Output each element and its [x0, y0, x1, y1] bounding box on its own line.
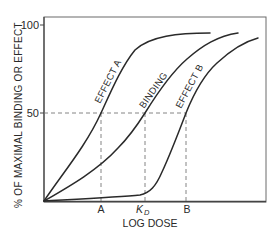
y-tick-label-50: 50: [27, 107, 39, 119]
curve-effect-b: [44, 38, 258, 201]
curve-label-binding: BINDING: [137, 70, 170, 110]
x-axis-label: LOG DOSE: [123, 217, 178, 229]
x-tick-label-a: A: [97, 203, 104, 215]
curve-binding: [44, 33, 238, 201]
y-axis-label: % OF MAXIMAL BINDING OR EFFECT: [13, 22, 24, 208]
x-tick-label-b: B: [183, 203, 190, 215]
x-tick-label-kd-main: K: [136, 203, 144, 215]
curve-label-effect-b: EFFECT B: [173, 62, 205, 110]
dose-response-chart: 100 50 EFFECT A BINDING EFFECT B A K D B…: [0, 0, 277, 234]
x-tick-label-kd: K D: [136, 203, 150, 217]
x-tick-label-kd-subscript: D: [144, 208, 150, 217]
plot-frame: [44, 17, 266, 202]
